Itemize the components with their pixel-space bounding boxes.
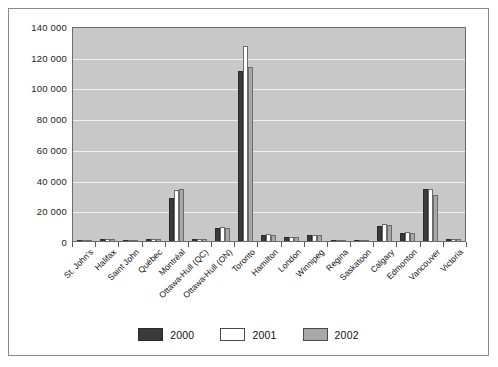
legend-swatch-icon — [138, 328, 163, 341]
bar — [410, 233, 415, 241]
legend-swatch-icon — [303, 328, 328, 341]
bar — [294, 237, 299, 241]
y-axis-tick-label: 140 000 — [31, 22, 67, 33]
bar-group — [400, 28, 415, 241]
legend-swatch-icon — [220, 328, 245, 341]
bar-group — [261, 28, 276, 241]
bar — [156, 239, 161, 241]
bar-group — [123, 28, 138, 241]
bar — [364, 240, 369, 242]
legend-item[interactable]: 2002 — [303, 328, 359, 341]
bar-group — [307, 28, 322, 241]
bar-group — [423, 28, 438, 241]
bar — [202, 239, 207, 241]
y-axis-tick-label: 40 000 — [37, 175, 67, 186]
bar-group — [100, 28, 115, 241]
bar-group — [238, 28, 253, 241]
bar — [248, 67, 253, 241]
bar — [341, 240, 346, 242]
x-axis-labels: St. John'sHalifaxSaint JohnQuébecMontréa… — [72, 247, 466, 327]
chart-legend: 200020012002 — [9, 328, 488, 341]
bar — [387, 225, 392, 241]
y-axis-tick-label: 20 000 — [37, 206, 67, 217]
y-axis-tick-label: 60 000 — [37, 144, 67, 155]
x-axis-tick — [466, 242, 467, 247]
bar — [433, 195, 438, 241]
chart-figure: 140 000120 000100 00080 00060 00040 0002… — [8, 8, 489, 356]
x-axis-tick-label: Victoria — [438, 247, 465, 274]
bar-group — [377, 28, 392, 241]
bar-group — [192, 28, 207, 241]
bar-groups — [73, 28, 465, 241]
bar — [317, 235, 322, 241]
plot-area — [72, 27, 466, 242]
bar-group — [331, 28, 346, 241]
bar-group — [215, 28, 230, 241]
y-axis-tick-label: 120 000 — [31, 52, 67, 63]
y-axis-tick-label: 0 — [62, 237, 67, 248]
bar — [110, 239, 115, 241]
bar-group — [354, 28, 369, 241]
y-axis: 140 000120 000100 00080 00060 00040 0002… — [9, 9, 73, 355]
legend-label: 2000 — [170, 329, 194, 341]
bar-group — [77, 28, 92, 241]
bar — [87, 240, 92, 242]
bar — [271, 235, 276, 241]
bar-group — [146, 28, 161, 241]
bar — [225, 228, 230, 241]
bar-group — [169, 28, 184, 241]
y-axis-tick-label: 80 000 — [37, 114, 67, 125]
bar — [179, 189, 184, 241]
legend-label: 2001 — [252, 329, 276, 341]
legend-label: 2002 — [335, 329, 359, 341]
bar — [133, 240, 138, 242]
legend-item[interactable]: 2000 — [138, 328, 194, 341]
bar-group — [284, 28, 299, 241]
bar-group — [446, 28, 461, 241]
bar — [456, 239, 461, 241]
y-axis-tick-label: 100 000 — [31, 83, 67, 94]
legend-item[interactable]: 2001 — [220, 328, 276, 341]
